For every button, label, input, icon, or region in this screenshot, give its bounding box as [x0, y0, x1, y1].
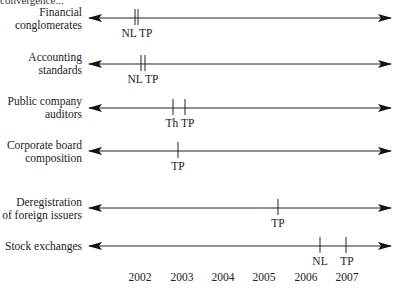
marker-label-nl-tp: NL TP: [128, 73, 159, 85]
marker-label-tp: TP: [171, 160, 184, 172]
marker-label-tp: TP: [340, 255, 353, 267]
timeline-graphic: [0, 0, 394, 291]
year-label-2003: 2003: [171, 271, 194, 283]
marker-label-nl-tp: NL TP: [122, 27, 153, 39]
year-label-2002: 2002: [129, 271, 152, 283]
marker-label-nl: NL: [312, 255, 327, 267]
year-label-2007: 2007: [336, 271, 359, 283]
year-label-2005: 2005: [253, 271, 276, 283]
marker-label-th-tp: Th TP: [166, 117, 195, 129]
marker-label-tp: TP: [271, 217, 284, 229]
year-label-2006: 2006: [295, 271, 318, 283]
year-label-2004: 2004: [212, 271, 235, 283]
